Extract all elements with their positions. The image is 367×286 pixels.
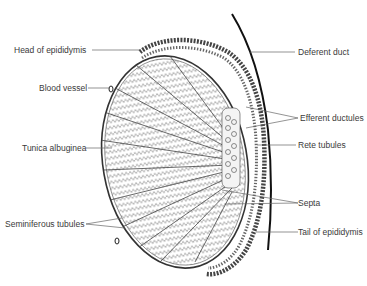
label-tail-of-epididymis: Tail of epididymis (298, 227, 363, 237)
label-efferent-ductules: Efferent ductules (300, 113, 364, 123)
label-seminiferous-tubules: Seminiferous tubules (5, 219, 84, 229)
label-rete-tubules: Rete tubules (298, 140, 346, 150)
label-head-of-epididymis: Head of epididymis (14, 45, 86, 55)
testis-body (86, 44, 265, 280)
label-deferent-duct: Deferent duct (298, 47, 349, 57)
blood-vessel-mark (109, 86, 113, 92)
label-septa: Septa (298, 198, 320, 208)
testis-diagram: Head of epididymis Blood vessel Tunica a… (0, 0, 367, 286)
label-tunica-albuginea: Tunica albuginea (22, 143, 86, 153)
label-blood-vessel: Blood vessel (39, 83, 87, 93)
rete-testis (222, 108, 240, 188)
